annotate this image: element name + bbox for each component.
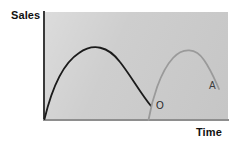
x-axis-title: Time <box>196 126 222 138</box>
curve-label-o: O <box>156 100 164 111</box>
curve-label-a: A <box>209 80 216 91</box>
y-axis-title: Sales <box>11 9 40 21</box>
curve-o-path <box>45 47 152 119</box>
chart-figure: Sales Time O A <box>0 0 237 141</box>
curves-layer <box>0 0 237 141</box>
